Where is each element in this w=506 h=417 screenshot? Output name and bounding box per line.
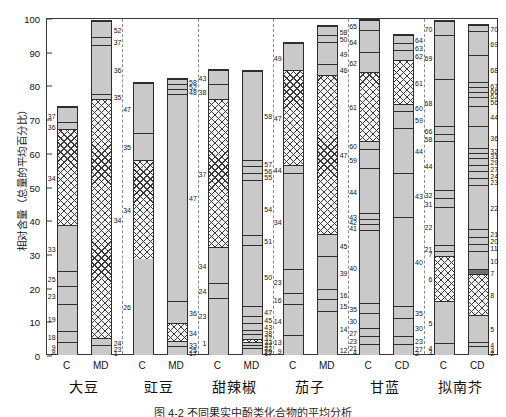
bar-segment[interactable]: 64 xyxy=(360,30,379,52)
bar-segment[interactable]: 30 xyxy=(394,318,413,337)
bar-segment[interactable]: 31 xyxy=(435,198,454,206)
bar-segment[interactable]: 25 xyxy=(168,346,187,351)
bar-segment[interactable]: 37 xyxy=(92,37,111,45)
bar-segment[interactable]: 2 xyxy=(469,351,488,355)
bar-segment[interactable]: 23 xyxy=(209,298,228,332)
bar-segment[interactable]: 14 xyxy=(284,304,303,334)
bar-segment[interactable]: 47 xyxy=(134,83,153,133)
bar-segment[interactable]: 56 xyxy=(243,166,262,173)
bar-segment[interactable]: 43 xyxy=(360,213,379,218)
bar-segment[interactable]: 31 xyxy=(469,153,488,158)
bar-segment[interactable]: 27 xyxy=(360,328,379,336)
bar-segment[interactable]: 36 xyxy=(168,301,187,323)
bar-segment[interactable]: 58 xyxy=(435,134,454,141)
bar-segment[interactable]: 65 xyxy=(360,20,379,30)
bar-segment[interactable]: 23 xyxy=(92,345,111,351)
bar-segment[interactable]: 9 xyxy=(284,347,303,355)
stacked-bar[interactable]: 1720222733373843454750515455565758 xyxy=(242,70,263,354)
bar-segment[interactable]: 52 xyxy=(92,21,111,37)
bar-segment[interactable]: 44 xyxy=(284,165,303,173)
bar-segment[interactable]: 34 xyxy=(58,129,77,225)
bar-segment[interactable]: 47 xyxy=(168,94,187,301)
bar-segment[interactable]: 6 xyxy=(435,256,454,301)
bar-segment[interactable]: 70 xyxy=(435,21,454,34)
bar-segment[interactable]: 58 xyxy=(243,71,262,160)
bar-segment[interactable]: 58 xyxy=(318,26,337,34)
bar-segment[interactable]: 45 xyxy=(243,316,262,323)
stacked-bar[interactable]: 3456721223132445866686970 xyxy=(434,20,455,354)
bar-segment[interactable]: 4 xyxy=(469,342,488,347)
bar-segment[interactable]: 33 xyxy=(243,339,262,342)
bar-segment[interactable]: 68 xyxy=(469,55,488,82)
bar-segment[interactable]: 3 xyxy=(469,346,488,351)
bar-segment[interactable]: 23 xyxy=(394,336,413,344)
bar-segment[interactable]: 15 xyxy=(318,299,337,311)
bar-segment[interactable]: 37 xyxy=(58,107,77,122)
bar-segment[interactable]: 14 xyxy=(318,311,337,345)
stacked-bar[interactable]: 1214151639454746495058 xyxy=(317,25,338,354)
bar-segment[interactable]: 48 xyxy=(168,89,187,94)
bar-segment[interactable]: 67 xyxy=(469,82,488,87)
bar-segment[interactable]: 27 xyxy=(394,344,413,351)
bar-segment[interactable]: 22 xyxy=(435,207,454,246)
bar-segment[interactable]: 16 xyxy=(318,289,337,299)
bar-segment[interactable]: 61 xyxy=(360,72,379,141)
bar-segment[interactable]: 24 xyxy=(209,283,228,298)
bar-segment[interactable]: 17 xyxy=(168,351,187,355)
stacked-bar[interactable]: 227233035404344596061626364 xyxy=(393,34,414,354)
bar-segment[interactable]: 8 xyxy=(58,350,77,355)
bar-segment[interactable]: 45 xyxy=(318,234,337,256)
bar-segment[interactable]: 23 xyxy=(58,286,77,305)
bar-segment[interactable]: 47 xyxy=(284,70,303,164)
bar-segment[interactable]: 50 xyxy=(318,35,337,42)
bar-segment[interactable]: 24 xyxy=(469,171,488,178)
bar-segment[interactable]: 44 xyxy=(360,168,379,213)
bar-segment[interactable]: 52 xyxy=(168,84,187,89)
bar-segment[interactable]: 18 xyxy=(58,331,77,341)
bar-segment[interactable]: 20 xyxy=(243,348,262,351)
stacked-bar[interactable]: 123243435363752 xyxy=(91,20,112,354)
bar-segment[interactable]: 60 xyxy=(394,104,413,111)
bar-segment[interactable]: 63 xyxy=(394,43,413,50)
bar-segment[interactable]: 46 xyxy=(318,64,337,76)
bar-segment[interactable]: 39 xyxy=(318,256,337,290)
bar-segment[interactable]: 36 xyxy=(92,45,111,94)
bar-segment[interactable]: 62 xyxy=(394,50,413,60)
bar-segment[interactable]: 36 xyxy=(58,122,77,129)
bar-segment[interactable]: 37 xyxy=(209,99,228,247)
bar-segment[interactable]: 60 xyxy=(360,141,379,149)
bar-segment[interactable]: 32 xyxy=(469,148,488,153)
bar-segment[interactable]: 27 xyxy=(243,342,262,345)
bar-segment[interactable]: 41 xyxy=(360,224,379,231)
bar-segment[interactable]: 21 xyxy=(360,344,379,350)
bar-segment[interactable]: 4 xyxy=(360,350,379,355)
bar-segment[interactable]: 34 xyxy=(209,247,228,282)
bar-segment[interactable]: 50 xyxy=(243,245,262,306)
bar-segment[interactable]: 5 xyxy=(469,315,488,342)
bar-segment[interactable]: 34 xyxy=(92,99,111,338)
bar-segment[interactable]: 7 xyxy=(469,269,488,274)
bar-segment[interactable]: 69 xyxy=(469,31,488,55)
bar-segment[interactable]: 3 xyxy=(435,350,454,355)
bar-segment[interactable]: 16 xyxy=(284,293,303,305)
stacked-bar[interactable]: 891819232533343637 xyxy=(57,106,78,354)
stacked-bar[interactable]: 172533343647485258 xyxy=(167,78,188,354)
bar-segment[interactable]: 49 xyxy=(318,42,337,64)
bar-segment[interactable]: 37 xyxy=(243,334,262,339)
bar-segment[interactable]: 32 xyxy=(435,190,454,198)
bar-segment[interactable]: 38 xyxy=(209,84,228,99)
bar-segment[interactable]: 2 xyxy=(394,351,413,355)
bar-segment[interactable]: 21 xyxy=(469,229,488,237)
bar-segment[interactable]: 22 xyxy=(469,185,488,229)
bar-segment[interactable]: 44 xyxy=(469,106,488,126)
bar-segment[interactable]: 66 xyxy=(469,87,488,92)
bar-segment[interactable]: 62 xyxy=(360,52,379,72)
bar-segment[interactable]: 20 xyxy=(469,237,488,244)
bar-segment[interactable]: 11 xyxy=(469,244,488,251)
bar-segment[interactable]: 5 xyxy=(435,301,454,343)
bar-segment[interactable]: 59 xyxy=(360,149,379,168)
bar-segment[interactable]: 66 xyxy=(435,126,454,134)
bar-segment[interactable]: 4 xyxy=(435,343,454,350)
bar-segment[interactable]: 44 xyxy=(435,141,454,190)
bar-segment[interactable]: 7 xyxy=(435,251,454,256)
